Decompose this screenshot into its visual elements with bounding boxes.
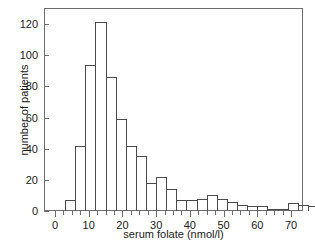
histogram-figure: 020406080100120 010203040506070 serum fo… [0,0,315,246]
x-axis-minor-tick [72,211,73,215]
bar-series [44,8,303,211]
y-axis-tick [44,55,49,56]
y-axis-tick [44,180,49,181]
x-axis-minor-tick [106,211,107,215]
x-axis-minor-tick [139,211,140,215]
x-axis-minor-tick [97,211,98,215]
x-axis-minor-tick [266,211,267,215]
y-axis-tick [44,86,49,87]
x-axis-major-tick [257,211,258,217]
x-axis-minor-tick [198,211,199,215]
x-axis-minor-tick [240,211,241,215]
x-axis-major-tick [89,211,90,217]
x-axis-major-tick [291,211,292,217]
x-axis-minor-tick [131,211,132,215]
plot-area [44,8,303,211]
histogram-bar [308,206,315,211]
y-axis-tick [44,211,49,212]
x-axis-minor-tick [80,211,81,215]
x-axis-major-tick [122,211,123,217]
x-axis-minor-tick [165,211,166,215]
y-axis-tick [44,118,49,119]
x-axis-minor-tick [207,211,208,215]
y-axis-tick-label: 120 [12,19,38,30]
x-axis-title: serum folate (nmol/l) [44,228,303,240]
x-axis-minor-tick [114,211,115,215]
x-axis-major-tick [190,211,191,217]
y-axis-tick [44,149,49,150]
x-axis-major-tick [156,211,157,217]
x-axis-major-tick [55,211,56,217]
x-axis-major-tick [224,211,225,217]
x-axis-minor-tick [232,211,233,215]
y-axis-title: number of patients [18,30,30,190]
y-axis-tick [44,24,49,25]
x-axis-minor-tick [249,211,250,215]
x-axis-minor-tick [148,211,149,215]
x-axis-minor-tick [274,211,275,215]
x-axis-minor-tick [181,211,182,215]
x-axis-minor-tick [63,211,64,215]
x-axis-minor-tick [215,211,216,215]
y-axis-tick-label: 0 [12,206,38,217]
x-axis-minor-tick [283,211,284,215]
x-axis-minor-tick [173,211,174,215]
